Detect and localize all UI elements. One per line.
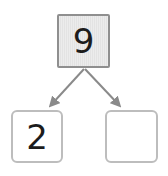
whole-number-box: 9 xyxy=(57,14,110,68)
arrow-to-right-part-icon xyxy=(85,69,119,105)
part-value-left: 2 xyxy=(26,120,48,154)
part-box-right-answer[interactable] xyxy=(105,110,158,163)
whole-number-value: 9 xyxy=(73,24,95,58)
part-box-left: 2 xyxy=(11,110,63,163)
number-bond-diagram: 9 2 xyxy=(0,0,168,176)
arrow-to-left-part-icon xyxy=(51,69,84,105)
